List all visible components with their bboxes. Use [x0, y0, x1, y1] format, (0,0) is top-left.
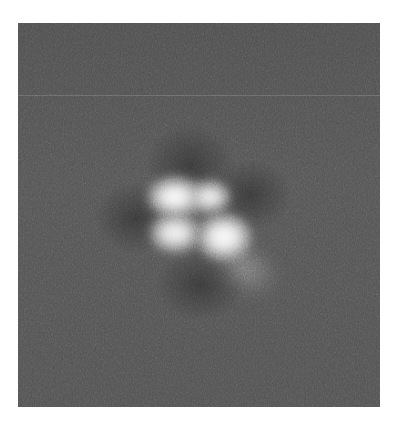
lobe-bottom-right: [198, 215, 251, 259]
image-background: [18, 23, 380, 407]
lobe-top-right: [191, 182, 228, 213]
microscopy-image: [18, 23, 380, 407]
lobe-bottom-left: [151, 215, 199, 250]
scan-line-artifact: [18, 95, 380, 96]
figure-canvas: [0, 0, 398, 431]
